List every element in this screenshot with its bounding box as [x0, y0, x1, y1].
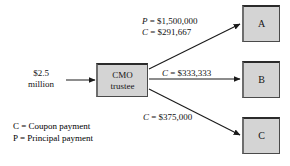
legend: C = Coupon payment P = Principal payment — [13, 120, 93, 144]
tranche-a-box[interactable]: A — [242, 5, 280, 42]
legend-item-coupon: C = Coupon payment — [13, 120, 93, 132]
tranche-a-flow-label: P = $1,500,000 C = $291,667 — [142, 16, 198, 39]
cmo-trustee-line2: trustee — [111, 81, 135, 91]
input-amount-line1: $2.5 — [18, 68, 64, 79]
tranche-c-box[interactable]: C — [242, 117, 280, 154]
tranche-b-coupon-text: C = $333,333 — [162, 68, 211, 79]
tranche-a-principal-text: P = $1,500,000 — [142, 16, 198, 27]
input-amount-line2: million — [18, 79, 64, 90]
cmo-trustee-line1: CMO — [111, 70, 135, 80]
tranche-b-box[interactable]: B — [242, 61, 280, 98]
tranche-b-flow-label: C = $333,333 — [162, 68, 211, 79]
tranche-c-coupon-text: C = $375,000 — [143, 112, 192, 123]
tranche-c-flow-label: C = $375,000 — [143, 112, 192, 123]
tranche-c-label: C — [258, 130, 265, 141]
cmo-trustee-box[interactable]: CMO trustee — [96, 63, 148, 97]
cmo-trustee-text: CMO trustee — [111, 70, 135, 90]
tranche-a-label: A — [258, 18, 265, 29]
legend-item-principal: P = Principal payment — [13, 132, 93, 144]
input-amount-label: $2.5 million — [18, 68, 64, 91]
cmo-flow-diagram: $2.5 million CMO trustee A B C P = $1,50… — [0, 0, 290, 166]
tranche-b-label: B — [258, 74, 265, 85]
tranche-a-coupon-text: C = $291,667 — [142, 27, 198, 38]
